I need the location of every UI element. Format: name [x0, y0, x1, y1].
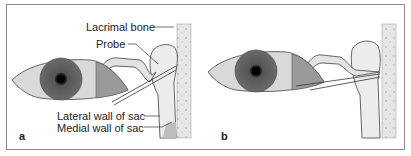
panel-b-drawing — [208, 24, 396, 138]
lacrimal-sac-b — [351, 41, 380, 138]
panel-label-b: b — [221, 130, 228, 142]
lacrimal-bone-b — [382, 24, 396, 138]
panel-label-a: a — [19, 130, 25, 142]
label-lacrimal-bone: Lacrimal bone — [86, 21, 155, 33]
label-medial-wall: Medial wall of sac — [57, 122, 144, 134]
lacrimal-bone — [177, 24, 191, 138]
label-probe: Probe — [96, 38, 125, 50]
pupil-b — [252, 67, 260, 75]
label-lateral-wall: Lateral wall of sac — [57, 110, 145, 122]
pupil — [57, 75, 65, 83]
